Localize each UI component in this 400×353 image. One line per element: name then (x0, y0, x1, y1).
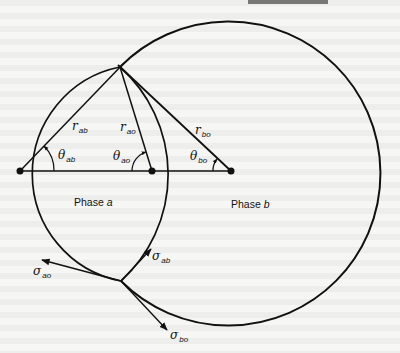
angle-ab-arc (44, 146, 54, 171)
angle-ab-label: θab (58, 149, 75, 164)
phase-lens-diagram (0, 0, 400, 353)
radius-bo-label: rbo (195, 124, 211, 139)
angle-bo-label: θbo (190, 150, 207, 165)
ab-interface (120, 67, 168, 281)
radius-ab-label: rab (72, 120, 88, 135)
angle-ao-label: θao (113, 150, 130, 165)
radius-ao-label: rao (120, 121, 136, 136)
phase-a-label: Phase a (74, 197, 113, 208)
tension-bo-label: σbo (170, 329, 188, 344)
center-point-bo (228, 168, 235, 175)
phase-b-label: Phase b (231, 199, 270, 210)
tension-ab-label: σab (152, 250, 170, 265)
tension-ab-vector (121, 249, 151, 281)
tension-ao-label: σao (33, 265, 51, 280)
phase-b-boundary (120, 21, 380, 325)
angle-ao-arc (132, 152, 146, 171)
center-point-ao (149, 168, 156, 175)
tension-ao-vector (42, 260, 121, 281)
angle-bo-arc (213, 159, 217, 171)
tension-bo-vector (121, 281, 167, 330)
phase-a-outer-boundary (32, 67, 121, 281)
center-point-ab (17, 168, 24, 175)
